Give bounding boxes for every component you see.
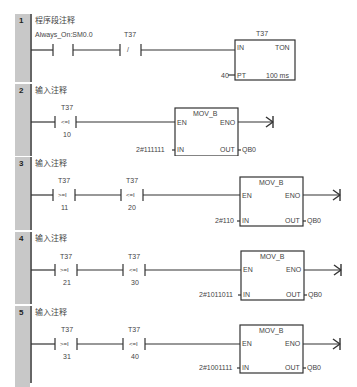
svg-text:T37: T37 <box>124 31 136 38</box>
svg-text:QB0: QB0 <box>307 217 321 225</box>
network-2[interactable]: 2 输入注释 T37 <=I 10 MOV_B EN ENO IN OUT 2#… <box>0 84 357 156</box>
contact-always-on[interactable]: Always_On:SM0.0 <box>31 31 93 56</box>
svg-text:EN: EN <box>242 192 252 199</box>
svg-text:2#1011011: 2#1011011 <box>199 291 233 298</box>
svg-text:>=I: >=I <box>60 267 69 273</box>
svg-text:>=I: >=I <box>58 192 67 198</box>
svg-text:30: 30 <box>131 279 139 286</box>
svg-text:<=I: <=I <box>129 341 138 347</box>
svg-text:11: 11 <box>61 204 68 211</box>
mov-b-block[interactable]: MOV_B EN ENO IN OUT 2#110 QB0 <box>215 177 321 226</box>
mov-b-block[interactable]: MOV_B EN ENO IN OUT 2#111111 QB0 <box>136 108 256 156</box>
svg-text:PT: PT <box>237 72 247 79</box>
network-number: 2 <box>19 86 24 95</box>
svg-text:T37: T37 <box>58 177 70 184</box>
compare-contact-ge[interactable]: T37 >=I 11 <box>31 177 75 211</box>
compare-contact-le[interactable]: T37 <=I 30 <box>123 253 145 286</box>
svg-text:QB0: QB0 <box>308 291 322 299</box>
svg-text:31: 31 <box>63 353 71 360</box>
svg-text:<=I: <=I <box>61 119 70 125</box>
svg-text:10: 10 <box>63 131 71 138</box>
contact-t37-nc[interactable]: T37 / <box>120 31 141 56</box>
svg-text:ENO: ENO <box>220 119 236 126</box>
svg-text:Always_On:SM0.0: Always_On:SM0.0 <box>35 31 93 39</box>
svg-text:T37: T37 <box>128 253 140 260</box>
svg-text:IN: IN <box>243 291 250 298</box>
network-comment[interactable]: 程序段注释 <box>35 15 75 25</box>
svg-text:EN: EN <box>243 266 253 273</box>
network-comment[interactable]: 输入注释 <box>35 158 67 168</box>
svg-text:TON: TON <box>275 44 290 51</box>
svg-text:T37: T37 <box>256 30 268 37</box>
svg-text:21: 21 <box>63 279 71 286</box>
network-number: 3 <box>19 159 24 168</box>
svg-text:>=I: >=I <box>60 341 69 347</box>
compare-contact-le[interactable]: T37 <=I 40 <box>123 326 145 360</box>
svg-text:2#111111: 2#111111 <box>136 146 165 153</box>
network-number: 4 <box>19 234 24 243</box>
svg-text:T37: T37 <box>126 177 138 184</box>
network-comment[interactable]: 输入注释 <box>35 85 67 95</box>
svg-text:OUT: OUT <box>220 146 236 153</box>
network-4[interactable]: 4 输入注释 T37 >=I 21 T37 <=I 30 MOV_B EN EN… <box>0 232 357 304</box>
svg-text:T37: T37 <box>61 326 73 333</box>
svg-text:ENO: ENO <box>285 340 301 347</box>
svg-text:2#1001111: 2#1001111 <box>199 364 233 371</box>
svg-text:MOV_B: MOV_B <box>260 253 285 261</box>
mov-b-block[interactable]: MOV_B EN ENO IN OUT 2#1001111 QB0 <box>199 325 321 373</box>
network-number: 1 <box>19 16 24 25</box>
timer-ton-block[interactable]: T37 IN TON PT 100 ms 40 <box>221 30 295 80</box>
svg-text:OUT: OUT <box>286 291 302 298</box>
svg-text:20: 20 <box>128 204 136 211</box>
svg-text:OUT: OUT <box>285 364 301 371</box>
svg-text:<=I: <=I <box>129 267 138 273</box>
svg-text:100 ms: 100 ms <box>266 72 289 79</box>
svg-text:2#110: 2#110 <box>215 217 234 224</box>
svg-text:40: 40 <box>131 353 139 360</box>
compare-contact-ge[interactable]: T37 >=I 31 <box>31 326 77 360</box>
svg-text:QB0: QB0 <box>307 364 321 372</box>
compare-contact-le[interactable]: T37 <=I 20 <box>121 177 143 211</box>
network-number: 5 <box>19 308 24 317</box>
svg-text:OUT: OUT <box>285 217 301 224</box>
svg-text:40: 40 <box>221 72 229 79</box>
network-gutter <box>15 306 30 387</box>
mov-b-block[interactable]: MOV_B EN ENO IN OUT 2#1011011 QB0 <box>199 251 322 300</box>
svg-text:IN: IN <box>237 44 244 51</box>
svg-text:IN: IN <box>242 217 249 224</box>
svg-text:MOV_B: MOV_B <box>259 179 284 187</box>
network-comment[interactable]: 输入注释 <box>35 233 67 243</box>
network-3[interactable]: 3 输入注释 T37 >=I 11 T37 <=I 20 MOV_B EN EN… <box>0 157 357 230</box>
svg-text:MOV_B: MOV_B <box>259 327 284 335</box>
network-comment[interactable]: 输入注释 <box>35 307 67 317</box>
network-1[interactable]: 1 程序段注释 Always_On:SM0.0 T37 / T37 IN TON… <box>0 14 357 82</box>
svg-text:T37: T37 <box>61 104 73 111</box>
svg-text:T37: T37 <box>128 326 140 333</box>
svg-text:IN: IN <box>242 364 249 371</box>
svg-text:IN: IN <box>177 146 184 153</box>
compare-contact-ge[interactable]: T37 >=I 21 <box>31 253 77 286</box>
compare-contact-le[interactable]: T37 <=I 10 <box>31 104 76 138</box>
svg-text:T37: T37 <box>60 253 72 260</box>
svg-text:ENO: ENO <box>285 192 301 199</box>
svg-text:/: / <box>127 46 129 53</box>
svg-text:<=I: <=I <box>126 192 135 198</box>
svg-text:MOV_B: MOV_B <box>193 110 218 118</box>
svg-text:EN: EN <box>242 340 252 347</box>
svg-text:QB0: QB0 <box>242 146 256 154</box>
network-5[interactable]: 5 输入注释 T37 >=I 31 T37 <=I 40 MOV_B EN EN… <box>0 306 357 387</box>
svg-text:EN: EN <box>177 119 187 126</box>
svg-text:ENO: ENO <box>286 266 302 273</box>
